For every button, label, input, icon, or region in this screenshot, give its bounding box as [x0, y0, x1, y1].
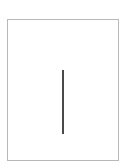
blank-document-page[interactable]: [7, 19, 119, 161]
text-cursor-caret: [62, 70, 64, 134]
